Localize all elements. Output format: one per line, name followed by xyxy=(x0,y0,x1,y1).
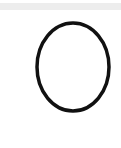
ellipse-outline xyxy=(37,23,109,111)
ellipse-shape xyxy=(0,0,121,148)
